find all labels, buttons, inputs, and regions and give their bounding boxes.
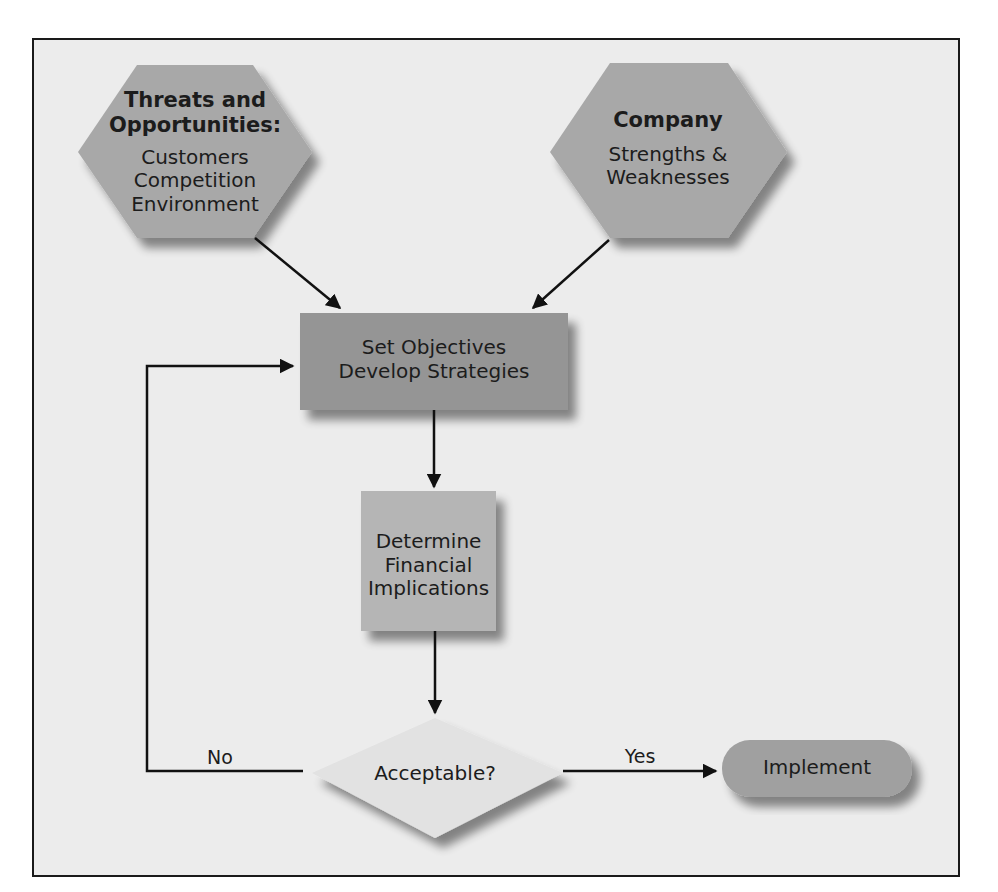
decision-label: Acceptable?	[335, 762, 535, 786]
arrow-threats-to-objectives	[255, 238, 340, 308]
threats-item-competition: Competition	[95, 169, 295, 193]
edge-label-yes: Yes	[610, 745, 670, 767]
threats-title-line2: Opportunities:	[95, 113, 295, 138]
objectives-label: Set Objectives Develop Strategies	[300, 336, 568, 383]
threats-label: Threats and Opportunities: Customers Com…	[95, 88, 295, 216]
financial-line1: Determine	[361, 530, 496, 554]
company-item-strengths: Strengths &	[568, 143, 768, 167]
objectives-line1: Set Objectives	[300, 336, 568, 360]
financial-line3: Implications	[361, 577, 496, 601]
company-label: Company Strengths & Weaknesses	[568, 108, 768, 190]
arrow-decision-no-to-objectives	[147, 366, 303, 771]
threats-item-environment: Environment	[95, 193, 295, 217]
company-item-weaknesses: Weaknesses	[568, 166, 768, 190]
objectives-line2: Develop Strategies	[300, 360, 568, 384]
company-title: Company	[568, 108, 768, 133]
edge-label-no: No	[195, 746, 245, 768]
financial-label: Determine Financial Implications	[361, 530, 496, 601]
implement-label: Implement	[722, 756, 912, 780]
arrow-company-to-objectives	[533, 240, 609, 308]
threats-title-line1: Threats and	[95, 88, 295, 113]
financial-line2: Financial	[361, 554, 496, 578]
threats-item-customers: Customers	[95, 146, 295, 170]
